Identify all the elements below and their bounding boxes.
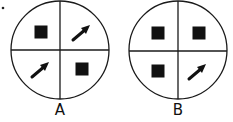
figure-a-top-left-square-icon [35,26,48,39]
figure-a-bottom-left-arrow-icon [32,62,49,77]
figure-a [11,1,109,99]
bullet-dot [2,7,5,10]
figure-a-bottom-right-square-icon [76,63,89,76]
figure-b-bottom-left-square-icon [152,65,165,78]
figure-b-top-right-square-icon [193,27,206,40]
figure-a-top-right-arrow-icon [73,25,90,40]
figure-a-label: A [45,101,75,119]
figure-b-bottom-right-arrow-icon [189,64,206,79]
figure-b-top-left-square-icon [152,27,165,40]
diagram-canvas [0,0,233,122]
figure-b-label: B [163,101,193,119]
figure-b [129,1,227,99]
